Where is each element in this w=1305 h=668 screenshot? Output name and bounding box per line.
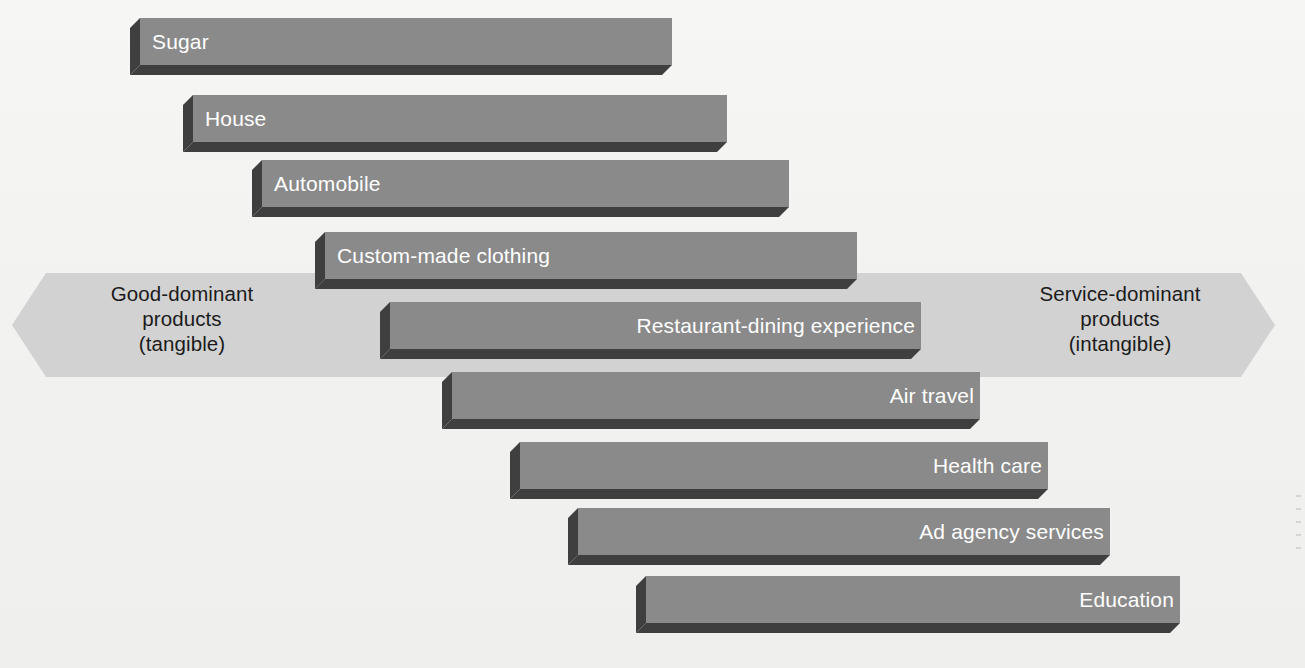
bar-shadow-bottom-face (442, 419, 980, 429)
bar-shadow-left-face (568, 508, 578, 565)
continuum-bar-automobile[interactable]: Automobile (252, 160, 799, 218)
bar-label: Air travel (890, 372, 974, 419)
continuum-bar-custom-made-clothing[interactable]: Custom-made clothing (315, 232, 867, 290)
bar-shadow-bottom-face (636, 623, 1180, 633)
scan-artifact-marks (1296, 495, 1303, 570)
bar-shadow-left-face (442, 372, 452, 429)
bar-shadow-bottom-face (130, 65, 672, 75)
bar-shadow-left-face (380, 302, 390, 359)
bar-shadow-bottom-face (252, 207, 789, 217)
continuum-bar-sugar[interactable]: Sugar (130, 18, 682, 76)
continuum-bar-restaurant-dining-experience[interactable]: Restaurant-dining experience (380, 302, 931, 360)
bar-label: Education (1079, 576, 1174, 623)
bar-label: Ad agency services (919, 508, 1104, 555)
bar-shadow-bottom-face (380, 349, 921, 359)
bar-shadow-bottom-face (510, 489, 1048, 499)
bar-label: Automobile (274, 160, 381, 207)
continuum-left-pole-label: Good-dominant products (tangible) (52, 281, 312, 356)
bar-shadow-bottom-face (568, 555, 1110, 565)
bar-shadow-left-face (252, 160, 262, 217)
bar-label: Sugar (152, 18, 209, 65)
bar-shadow-left-face (183, 95, 193, 152)
continuum-bar-ad-agency-services[interactable]: Ad agency services (568, 508, 1120, 566)
bar-label: Custom-made clothing (337, 232, 550, 279)
continuum-bar-education[interactable]: Education (636, 576, 1190, 634)
continuum-right-pole-label: Service-dominant products (intangible) (985, 281, 1255, 356)
bar-shadow-left-face (510, 442, 520, 499)
bar-label: House (205, 95, 266, 142)
bar-label: Restaurant-dining experience (636, 302, 915, 349)
bar-shadow-bottom-face (183, 142, 727, 152)
bar-label: Health care (933, 442, 1042, 489)
bar-front-face (140, 18, 672, 65)
bar-shadow-left-face (636, 576, 646, 633)
continuum-bar-house[interactable]: House (183, 95, 737, 153)
continuum-bar-air-travel[interactable]: Air travel (442, 372, 990, 430)
continuum-bar-health-care[interactable]: Health care (510, 442, 1058, 500)
goods-services-continuum-diagram: Good-dominant products (tangible) Servic… (0, 0, 1305, 668)
bar-shadow-bottom-face (315, 279, 857, 289)
bar-shadow-left-face (315, 232, 325, 289)
bar-shadow-left-face (130, 18, 140, 75)
bar-front-face (193, 95, 727, 142)
